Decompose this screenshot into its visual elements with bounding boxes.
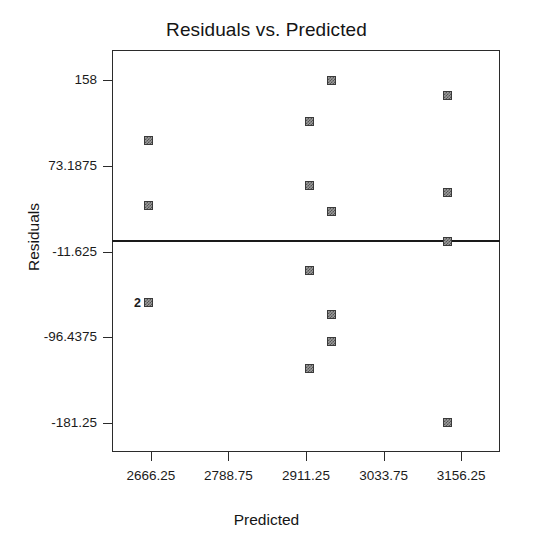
data-point[interactable] <box>305 181 314 190</box>
data-point[interactable] <box>327 207 336 216</box>
data-point[interactable] <box>305 364 314 373</box>
data-point[interactable] <box>144 136 153 145</box>
x-tick-mark <box>151 452 152 461</box>
data-point[interactable] <box>443 418 452 427</box>
x-tick-mark <box>461 452 462 461</box>
y-tick-label: -96.4375 <box>0 330 97 344</box>
data-point[interactable] <box>305 266 314 275</box>
y-tick-mark <box>103 80 112 81</box>
chart-figure: Residuals vs. Predicted 15873.1875-11.62… <box>0 0 533 558</box>
data-point[interactable] <box>327 76 336 85</box>
x-tick-label: 3156.25 <box>411 469 511 483</box>
chart-title: Residuals vs. Predicted <box>0 19 533 41</box>
y-tick-label: -11.625 <box>0 245 97 259</box>
y-axis-label: Residuals <box>25 177 43 297</box>
data-point[interactable] <box>305 117 314 126</box>
y-tick-mark <box>103 252 112 253</box>
data-point[interactable] <box>443 91 452 100</box>
data-point[interactable] <box>327 310 336 319</box>
y-tick-label: -181.25 <box>0 416 97 430</box>
y-tick-mark <box>103 337 112 338</box>
y-tick-label: 158 <box>0 73 97 87</box>
plot-area <box>112 50 500 452</box>
y-tick-label: 73.1875 <box>0 159 97 173</box>
x-axis-label: Predicted <box>0 511 533 529</box>
data-point[interactable] <box>144 201 153 210</box>
data-point[interactable] <box>144 298 153 307</box>
zero-reference-line <box>112 240 500 242</box>
data-point-label: 2 <box>134 297 141 309</box>
x-tick-mark <box>228 452 229 461</box>
x-tick-mark <box>306 452 307 461</box>
y-tick-mark <box>103 423 112 424</box>
data-point[interactable] <box>327 337 336 346</box>
y-tick-mark <box>103 166 112 167</box>
x-tick-mark <box>384 452 385 461</box>
data-point[interactable] <box>443 188 452 197</box>
data-point[interactable] <box>443 237 452 246</box>
